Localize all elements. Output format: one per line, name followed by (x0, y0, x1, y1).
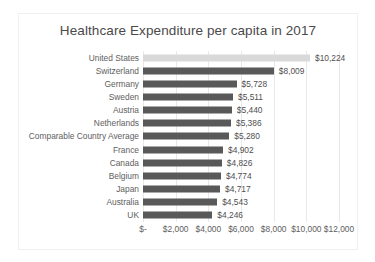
bar-row[interactable]: Japan$4,717 (143, 183, 339, 196)
category-label: Belgium (109, 171, 139, 181)
plot-area: United States$10,224Switzerland$8,009Ger… (143, 51, 339, 222)
bar-row[interactable]: UK$4,246 (143, 209, 339, 222)
x-axis: $-$2,000$4,000$6,000$8,000$10,000$12,000 (143, 224, 339, 238)
bar-value-label: $4,717 (225, 184, 251, 194)
bar-row[interactable]: Comparable Country Average$5,280 (143, 130, 339, 143)
category-label: Switzerland (96, 66, 139, 76)
category-label: France (113, 145, 139, 155)
bar-row[interactable]: France$4,902 (143, 143, 339, 156)
bar-row[interactable]: Sweden$5,511 (143, 90, 339, 103)
category-label: Austria (113, 105, 139, 115)
bar[interactable] (143, 80, 237, 87)
bar[interactable] (143, 133, 229, 140)
bar[interactable] (143, 186, 220, 193)
bar-value-label: $4,774 (226, 171, 252, 181)
x-axis-tick-label: $10,000 (291, 224, 321, 234)
bar[interactable] (143, 120, 231, 127)
category-label: UK (127, 210, 139, 220)
category-label: Japan (116, 184, 139, 194)
bar-value-label: $4,246 (217, 210, 243, 220)
bar-value-label: $5,386 (236, 118, 262, 128)
category-label: United States (89, 53, 139, 63)
bar-row[interactable]: Netherlands$5,386 (143, 117, 339, 130)
bar-row[interactable]: Australia$4,543 (143, 196, 339, 209)
bar-value-label: $4,826 (227, 158, 253, 168)
bar-row[interactable]: Belgium$4,774 (143, 169, 339, 182)
bar-rows: United States$10,224Switzerland$8,009Ger… (143, 51, 339, 222)
bar-value-label: $4,543 (222, 197, 248, 207)
x-axis-tick-label: $- (139, 224, 146, 234)
bar[interactable] (143, 212, 212, 219)
bar-value-label: $5,440 (237, 105, 263, 115)
category-label: Netherlands (94, 118, 139, 128)
bar-value-label: $5,511 (238, 92, 263, 102)
bar-value-label: $10,224 (315, 53, 345, 63)
bar[interactable] (143, 146, 223, 153)
bar[interactable] (143, 67, 274, 74)
category-label: Germany (105, 79, 139, 89)
category-label: Comparable Country Average (29, 131, 139, 141)
chart-title: Healthcare Expenditure per capita in 201… (19, 23, 357, 38)
bar[interactable] (143, 94, 233, 101)
bar-row[interactable]: Germany$5,728 (143, 77, 339, 90)
bar[interactable] (143, 159, 222, 166)
bar-value-label: $8,009 (279, 66, 305, 76)
bar-value-label: $4,902 (228, 145, 254, 155)
bar[interactable] (143, 172, 221, 179)
x-axis-tick-label: $8,000 (261, 224, 287, 234)
category-label: Australia (106, 197, 139, 207)
x-axis-tick-label: $12,000 (324, 224, 354, 234)
x-axis-tick-label: $6,000 (228, 224, 254, 234)
bar-row[interactable]: Canada$4,826 (143, 156, 339, 169)
gridline (339, 51, 340, 222)
category-label: Canada (110, 158, 139, 168)
bar-value-label: $5,728 (242, 79, 268, 89)
category-label: Sweden (109, 92, 139, 102)
bar[interactable] (143, 107, 232, 114)
bar[interactable] (143, 199, 217, 206)
bar-row[interactable]: Switzerland$8,009 (143, 64, 339, 77)
bar-row[interactable]: Austria$5,440 (143, 104, 339, 117)
bar-row[interactable]: United States$10,224 (143, 51, 339, 64)
x-axis-tick-label: $4,000 (196, 224, 222, 234)
chart-container: Healthcare Expenditure per capita in 201… (18, 13, 358, 250)
x-axis-tick-label: $2,000 (163, 224, 189, 234)
bar[interactable] (143, 54, 310, 61)
bar-value-label: $5,280 (234, 131, 260, 141)
